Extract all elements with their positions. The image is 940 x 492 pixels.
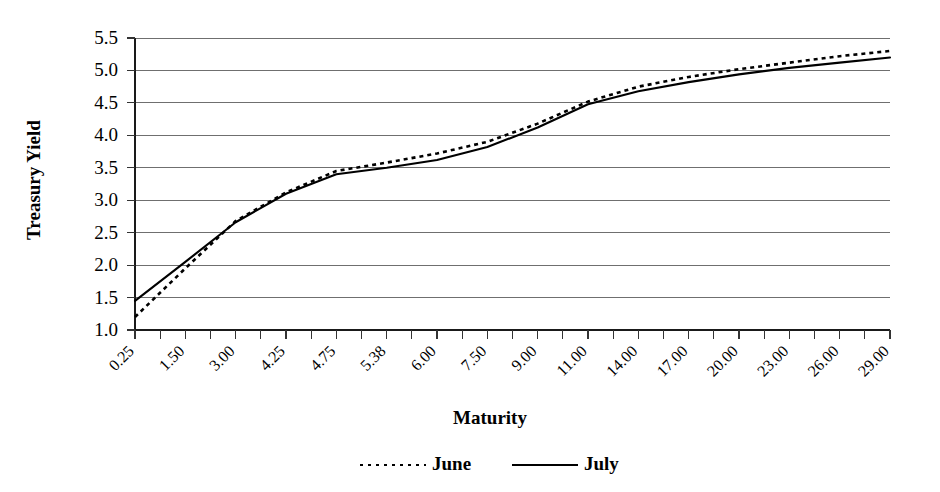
x-axis-title: Maturity	[453, 407, 527, 428]
y-tick-label: 4.5	[94, 92, 118, 113]
y-tick-label: 3.5	[94, 157, 118, 178]
y-axis-title: Treasury Yield	[23, 120, 44, 240]
y-tick-label: 2.0	[94, 254, 118, 275]
y-tick-label: 1.0	[94, 319, 118, 340]
y-tick-label: 3.0	[94, 189, 118, 210]
legend-label-june: June	[432, 453, 471, 474]
y-tick-label: 1.5	[94, 287, 118, 308]
y-tick-label: 4.0	[94, 124, 118, 145]
chart-canvas: 1.01.52.02.53.03.54.04.55.05.5 0.251.503…	[0, 0, 940, 492]
y-tick-label: 5.0	[94, 59, 118, 80]
treasury-yield-curve-chart: 1.01.52.02.53.03.54.04.55.05.5 0.251.503…	[0, 0, 940, 492]
y-tick-label: 2.5	[94, 222, 118, 243]
legend-label-july: July	[584, 453, 619, 474]
y-tick-label: 5.5	[94, 27, 118, 48]
